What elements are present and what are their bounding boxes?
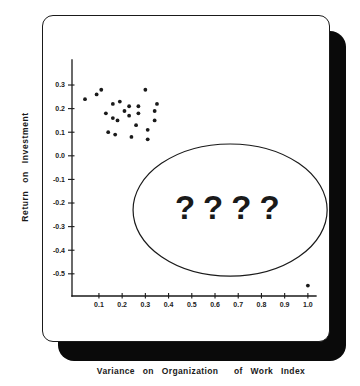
y-tick-label: -0.5	[53, 270, 65, 277]
data-point	[136, 111, 140, 115]
y-tick-label: -0.1	[53, 176, 65, 183]
data-point	[123, 109, 127, 113]
axes	[72, 60, 316, 296]
question-marks: ????	[175, 189, 288, 226]
data-point	[153, 109, 157, 113]
data-point	[134, 123, 138, 127]
y-tick-label: 0.2	[55, 105, 65, 112]
data-point	[130, 135, 134, 139]
scatter-chart: 0.10.20.30.40.50.60.70.80.91.00.30.20.10…	[0, 0, 360, 386]
data-points	[83, 88, 310, 288]
y-axis-title: Return on Investment	[20, 112, 30, 221]
data-point	[127, 114, 131, 118]
figure-canvas: 0.10.20.30.40.50.60.70.80.91.00.30.20.10…	[0, 0, 360, 386]
data-point	[106, 130, 110, 134]
y-tick-label: -0.4	[53, 247, 65, 254]
data-point	[104, 111, 108, 115]
data-point	[111, 116, 115, 120]
x-tick-label: 0.6	[210, 301, 220, 308]
x-tick-label: 0.7	[233, 301, 243, 308]
y-tick-label: 0.0	[55, 152, 65, 159]
data-point	[111, 102, 115, 106]
x-tick-label: 0.1	[94, 301, 104, 308]
data-point	[83, 97, 87, 101]
x-axis-title: Variance on Organization of Work Index	[97, 366, 305, 376]
x-tick-label: 0.4	[164, 301, 174, 308]
x-tick-label: 0.2	[117, 301, 127, 308]
data-point	[95, 93, 99, 97]
data-point	[127, 104, 131, 108]
y-tick-label: -0.2	[53, 199, 65, 206]
data-point	[306, 284, 310, 288]
data-point	[143, 88, 147, 92]
y-tick-label: 0.3	[55, 81, 65, 88]
data-point	[118, 100, 122, 104]
data-point	[146, 128, 150, 132]
y-tick-label: 0.1	[55, 129, 65, 136]
data-point	[113, 133, 117, 137]
x-tick-label: 0.5	[187, 301, 197, 308]
data-point	[99, 88, 103, 92]
data-point	[146, 137, 150, 141]
y-tick-label: -0.3	[53, 223, 65, 230]
x-tick-label: 0.9	[280, 301, 290, 308]
data-point	[116, 119, 120, 123]
data-point	[155, 102, 159, 106]
x-tick-label: 1.0	[303, 301, 313, 308]
data-point	[136, 104, 140, 108]
x-tick-label: 0.8	[257, 301, 267, 308]
x-tick-label: 0.3	[140, 301, 150, 308]
data-point	[153, 119, 157, 123]
